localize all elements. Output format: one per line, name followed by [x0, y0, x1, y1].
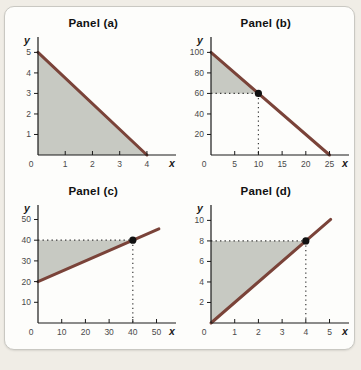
x-tick-label: 1	[63, 159, 68, 169]
panel-b: Panel (b) 510152025204060801000yx	[180, 11, 353, 179]
y-tick-label: 5	[27, 47, 32, 57]
y-tick-label: 6	[199, 256, 204, 266]
curve-line	[211, 52, 330, 155]
x-tick-label: 10	[253, 159, 263, 169]
data-point	[255, 90, 262, 97]
data-point	[129, 237, 136, 244]
panel-c: Panel (c) 102030405010203040500yx	[7, 179, 180, 347]
y-tick-label: 1	[27, 129, 32, 139]
x-tick-label: 3	[118, 159, 123, 169]
y-tick-label: 4	[27, 68, 32, 78]
data-point	[302, 237, 309, 244]
y-tick-label: 40	[22, 235, 32, 245]
x-axis-label: x	[341, 325, 349, 337]
y-tick-label: 20	[22, 277, 32, 287]
origin-label: 0	[29, 159, 34, 169]
y-axis-label: y	[196, 202, 204, 214]
y-tick-label: 2	[199, 297, 204, 307]
panel-c-chart: 102030405010203040500yx	[8, 199, 178, 345]
x-tick-label: 5	[327, 327, 332, 337]
x-tick-label: 5	[232, 159, 237, 169]
y-tick-label: 50	[22, 214, 32, 224]
y-tick-label: 20	[194, 129, 204, 139]
y-axis-label: y	[23, 202, 31, 214]
x-tick-label: 50	[152, 327, 162, 337]
x-axis-label: x	[168, 157, 176, 169]
y-tick-label: 2	[27, 109, 32, 119]
panel-title: Panel (d)	[241, 184, 291, 199]
y-tick-label: 10	[194, 215, 204, 225]
x-axis-label: x	[168, 325, 176, 337]
panel-d-chart: 123452468100yx	[181, 199, 351, 345]
y-tick-label: 100	[190, 47, 204, 57]
x-tick-label: 20	[301, 159, 311, 169]
x-axis-label: x	[341, 157, 349, 169]
y-axis-label: y	[196, 34, 204, 46]
y-tick-label: 4	[199, 277, 204, 287]
y-tick-label: 3	[27, 88, 32, 98]
x-tick-label: 2	[90, 159, 95, 169]
panel-a: Panel (a) 1234123450yx	[7, 11, 180, 179]
panel-title: Panel (c)	[68, 184, 118, 199]
y-tick-label: 40	[194, 109, 204, 119]
panel-title: Panel (a)	[68, 16, 118, 31]
origin-label: 0	[29, 327, 34, 337]
x-tick-label: 30	[105, 327, 115, 337]
x-tick-label: 4	[303, 327, 308, 337]
panel-a-chart: 1234123450yx	[8, 31, 178, 177]
figure-card: Panel (a) 1234123450yx Panel (b) 5101520…	[4, 6, 355, 350]
y-axis-label: y	[23, 34, 31, 46]
y-tick-label: 80	[194, 68, 204, 78]
x-tick-label: 15	[277, 159, 287, 169]
x-tick-label: 20	[81, 327, 91, 337]
panel-title: Panel (b)	[241, 16, 291, 31]
x-tick-label: 1	[232, 327, 237, 337]
y-tick-label: 10	[22, 297, 32, 307]
panel-b-chart: 510152025204060801000yx	[181, 31, 351, 177]
y-tick-label: 30	[22, 256, 32, 266]
y-tick-label: 60	[194, 88, 204, 98]
y-tick-label: 8	[199, 236, 204, 246]
origin-label: 0	[201, 159, 206, 169]
x-tick-label: 4	[145, 159, 150, 169]
x-tick-label: 25	[325, 159, 335, 169]
x-tick-label: 3	[279, 327, 284, 337]
origin-label: 0	[201, 327, 206, 337]
x-tick-label: 2	[256, 327, 261, 337]
panel-d: Panel (d) 123452468100yx	[180, 179, 353, 347]
x-tick-label: 10	[57, 327, 67, 337]
x-tick-label: 40	[128, 327, 138, 337]
